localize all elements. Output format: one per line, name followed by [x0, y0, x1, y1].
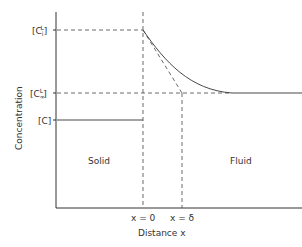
- fluid-concentration-curve: [143, 30, 302, 93]
- x-axis-title: Distance x: [138, 228, 186, 238]
- tangent-line: [143, 30, 182, 93]
- ci-label: [CiL]: [32, 24, 47, 37]
- fluid-region-label: Fluid: [230, 156, 252, 166]
- x0-label: x = 0: [131, 213, 156, 223]
- c-label: [C]: [38, 116, 51, 126]
- concentration-profile-diagram: [CiL] [C∞L] [C] Solid Fluid x = 0 x = δ …: [0, 0, 302, 247]
- solid-region-label: Solid: [88, 156, 110, 166]
- cinf-label: [C∞L]: [30, 87, 47, 100]
- xdelta-label: x = δ: [170, 213, 195, 223]
- y-axis-title: Concentration: [14, 86, 24, 150]
